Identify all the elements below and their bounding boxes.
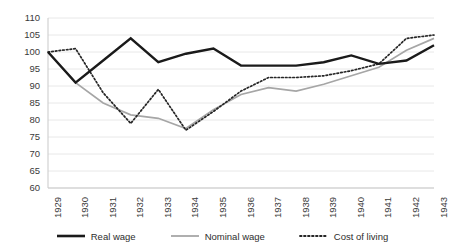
x-tick-label: 1932 <box>135 197 145 218</box>
legend-swatch-real-wage-icon <box>56 231 86 241</box>
y-tick-label: 85 <box>14 98 40 108</box>
series-lines <box>48 35 434 130</box>
y-tick-label: 95 <box>14 64 40 74</box>
x-tick-label: 1931 <box>108 197 118 218</box>
x-tick-label: 1936 <box>246 197 256 218</box>
y-tick-label: 100 <box>14 47 40 57</box>
y-tick-label: 65 <box>14 166 40 176</box>
y-tick-label: 70 <box>14 149 40 159</box>
x-tick-label: 1943 <box>439 197 449 218</box>
x-tick-label: 1941 <box>383 197 393 218</box>
x-tick-label: 1937 <box>273 197 283 218</box>
x-tick-label: 1934 <box>190 197 200 218</box>
legend-item-nominal-wage[interactable]: Nominal wage <box>170 231 265 242</box>
chart-legend: Real wageNominal wageCost of living <box>0 226 444 246</box>
x-tick-label: 1935 <box>218 197 228 218</box>
x-tick-label: 1930 <box>80 197 90 218</box>
legend-label-cost-of-living: Cost of living <box>334 231 388 242</box>
y-tick-label: 80 <box>14 115 40 125</box>
x-tick-label: 1929 <box>53 197 63 218</box>
series-line-cost-of-living <box>48 35 434 130</box>
y-tick-label: 60 <box>14 183 40 193</box>
y-tick-label: 105 <box>14 30 40 40</box>
y-tick-label: 90 <box>14 81 40 91</box>
x-tick-label: 1939 <box>328 197 338 218</box>
y-tick-label: 110 <box>14 13 40 23</box>
legend-item-real-wage[interactable]: Real wage <box>56 231 136 242</box>
x-tick-label: 1938 <box>301 197 311 218</box>
x-tick-label: 1940 <box>356 197 366 218</box>
x-tick-label: 1942 <box>411 197 421 218</box>
legend-swatch-cost-of-living-icon <box>299 231 329 241</box>
legend-swatch-nominal-wage-icon <box>170 231 200 241</box>
series-line-real-wage <box>48 38 434 82</box>
legend-item-cost-of-living[interactable]: Cost of living <box>299 231 388 242</box>
gridlines <box>48 18 434 188</box>
legend-label-real-wage: Real wage <box>91 231 136 242</box>
legend-label-nominal-wage: Nominal wage <box>205 231 265 242</box>
x-tick-label: 1933 <box>163 197 173 218</box>
y-tick-label: 75 <box>14 132 40 142</box>
